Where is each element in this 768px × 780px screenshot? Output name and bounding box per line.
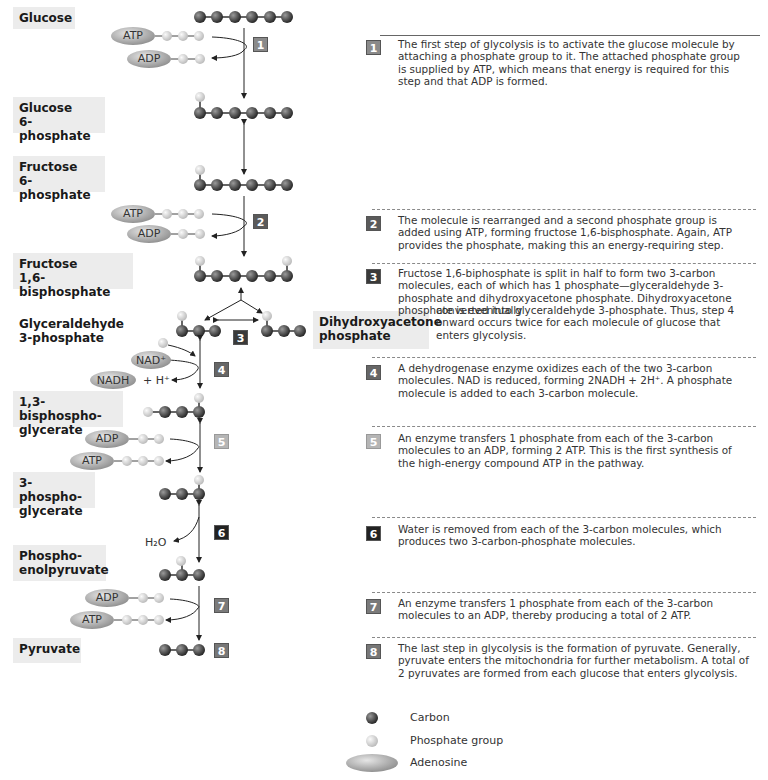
stage-label-fructose-6-phosphate: Fructose6-phosphate xyxy=(13,156,105,192)
3-phosphoglycerate-molecule xyxy=(159,475,205,500)
legend-phosphate-label: Phosphate group xyxy=(410,734,503,747)
step-7-description: An enzyme transfers 1 phosphate from eac… xyxy=(398,597,750,622)
adp-label: ADP xyxy=(85,591,129,604)
stage-label-bisphosphoglycerate: 1,3-bisphospho-glycerate xyxy=(13,391,123,427)
desc-badge-8: 8 xyxy=(366,644,381,659)
svg-text:NAD⁺: NAD⁺ xyxy=(136,354,166,367)
step-badge-3: 3 xyxy=(233,330,248,345)
desc-badge-5: 5 xyxy=(366,434,381,449)
desc-badge-2: 2 xyxy=(366,216,381,231)
atp-label: ATP xyxy=(111,29,155,42)
stage-label-3-phosphoglycerate: 3-phospho-glycerate xyxy=(13,472,95,508)
step-1-description: The first step of glycolysis is to activ… xyxy=(398,38,750,88)
step-2-description: The molecule is rearranged and a second … xyxy=(398,214,750,251)
dihydroxyacetone-phosphate-molecule xyxy=(261,311,306,337)
adp-label: ADP xyxy=(127,227,171,240)
bisphosphoglycerate-molecule xyxy=(143,393,205,418)
step-badge-2: 2 xyxy=(253,214,268,229)
step-badge-5: 5 xyxy=(214,434,229,449)
step-6-description: Water is removed from each of the 3-carb… xyxy=(398,523,750,548)
separator xyxy=(380,35,760,36)
stage-label-fructose-1-6-bisphosphate: Fructose1,6-bisphosphate xyxy=(13,253,133,289)
phosphate-sphere-icon xyxy=(366,735,378,747)
separator xyxy=(372,357,756,358)
atp-label: ATP xyxy=(70,613,114,626)
step-3-description-b: converted into glyceraldehyde 3-phosphat… xyxy=(436,304,756,341)
water-label: H₂O xyxy=(145,536,167,549)
step-badge-6: 6 xyxy=(214,525,229,540)
separator xyxy=(372,426,756,427)
adenosine-ellipse-icon xyxy=(346,754,398,772)
legend-adenosine-label: Adenosine xyxy=(410,756,467,769)
stage-label-glucose: Glucose xyxy=(13,7,75,29)
adp-label: ADP xyxy=(85,432,129,445)
separator xyxy=(372,263,756,264)
stage-label-glucose-6-phosphate: Glucose6-phosphate xyxy=(13,97,105,133)
separator xyxy=(372,517,756,518)
phosphoenolpyruvate-molecule xyxy=(159,556,205,581)
stage-label-glyceraldehyde-3-phosphate: Glyceraldehyde3-phosphate xyxy=(13,313,118,349)
stage-label-pyruvate: Pyruvate xyxy=(13,638,81,663)
separator xyxy=(372,592,756,593)
carbon-sphere-icon xyxy=(366,712,378,724)
stage-label-dihydroxyacetone-phosphate: Dihydroxyacetonephosphate xyxy=(313,311,429,349)
desc-badge-4: 4 xyxy=(366,365,381,380)
glucose-molecule xyxy=(194,11,293,23)
stage-label-phosphoenolpyruvate: Phospho-enolpyruvate xyxy=(13,545,106,581)
desc-badge-7: 7 xyxy=(366,599,381,614)
step-badge-1: 1 xyxy=(253,37,268,52)
step-5-description: An enzyme transfers 1 phosphate from eac… xyxy=(398,432,750,469)
atp-label: ATP xyxy=(111,207,155,220)
svg-text:NADH: NADH xyxy=(97,374,130,387)
desc-badge-6: 6 xyxy=(366,526,381,541)
separator xyxy=(372,637,756,638)
pyruvate-molecule xyxy=(159,644,205,656)
adp-label: ADP xyxy=(127,52,171,65)
step-badge-4: 4 xyxy=(214,362,229,377)
desc-badge-3: 3 xyxy=(366,269,381,284)
step-4-description: A dehydrogenase enzyme oxidizes each of … xyxy=(398,362,750,399)
atp-label: ATP xyxy=(70,454,114,467)
fructose-1-6-bisphosphate-molecule xyxy=(194,256,293,282)
step-badge-8: 8 xyxy=(214,643,229,658)
step-badge-7: 7 xyxy=(214,598,229,613)
desc-badge-1: 1 xyxy=(366,40,381,55)
legend-carbon-label: Carbon xyxy=(410,711,450,724)
svg-text:+ H⁺: + H⁺ xyxy=(143,374,170,387)
separator xyxy=(372,209,756,210)
step-8-description: The last step in glycolysis is the forma… xyxy=(398,642,750,679)
